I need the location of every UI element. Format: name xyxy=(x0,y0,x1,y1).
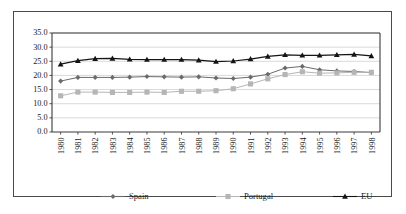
data-point-marker xyxy=(334,70,339,75)
x-tick-label: 1981 xyxy=(74,138,83,154)
data-point-marker xyxy=(75,90,80,95)
x-tick-label: 1995 xyxy=(316,138,325,154)
axes-group xyxy=(52,33,380,132)
series-eu xyxy=(58,52,375,67)
x-tick-label: 1997 xyxy=(350,138,359,154)
data-point-marker xyxy=(58,79,63,84)
chart-legend: SpainPortugalEU xyxy=(101,191,373,201)
legend-item-spain[interactable]: Spain xyxy=(101,191,149,201)
legend-label: Spain xyxy=(129,191,149,201)
x-tick-label: 1993 xyxy=(281,138,290,154)
x-tick-label: 1982 xyxy=(91,138,100,154)
x-tick-label: 1983 xyxy=(109,138,118,154)
x-tick-label: 1980 xyxy=(57,138,66,154)
data-point-marker xyxy=(300,69,305,74)
data-point-marker xyxy=(144,74,149,79)
legend-label: EU xyxy=(361,191,373,201)
y-tick-label: 35.0 xyxy=(33,28,47,37)
chart-figure: 0.05.010.015.020.025.030.035.0 198019811… xyxy=(0,0,406,214)
series-spain xyxy=(58,64,374,84)
legend-item-eu[interactable]: EU xyxy=(333,191,373,201)
x-tick-label: 1984 xyxy=(126,138,135,154)
data-point-marker xyxy=(162,74,167,79)
data-point-marker xyxy=(352,70,357,75)
x-tick-label: 1994 xyxy=(299,138,308,154)
data-series-group xyxy=(58,52,375,99)
legend-item-portugal[interactable]: Portugal xyxy=(216,191,274,201)
data-point-marker xyxy=(110,90,115,95)
data-point-marker xyxy=(369,70,374,75)
data-point-marker xyxy=(248,81,253,86)
data-point-marker xyxy=(162,90,167,95)
x-tick-label: 1990 xyxy=(229,138,238,154)
data-point-marker xyxy=(144,90,149,95)
data-point-marker xyxy=(283,72,288,77)
y-tick-label: 0.0 xyxy=(37,127,47,136)
data-point-marker xyxy=(110,194,115,199)
data-point-marker xyxy=(317,71,322,76)
data-point-marker xyxy=(231,76,236,81)
y-tick-label: 10.0 xyxy=(33,99,47,108)
x-tick-label: 1996 xyxy=(333,138,342,154)
data-point-marker xyxy=(58,93,63,98)
data-point-marker xyxy=(225,194,230,199)
data-point-marker xyxy=(283,66,288,71)
y-tick-label: 5.0 xyxy=(37,113,47,122)
x-tick-label: 1991 xyxy=(247,138,256,154)
data-point-marker xyxy=(265,72,270,77)
x-tick-label: 1987 xyxy=(178,138,187,154)
y-tick-label: 20.0 xyxy=(33,71,47,80)
data-point-marker xyxy=(127,90,132,95)
data-point-marker xyxy=(196,74,201,79)
y-axis-ticks-group: 0.05.010.015.020.025.030.035.0 xyxy=(33,28,52,136)
x-axis-ticks-group: 1980198119821983198419851986198719881989… xyxy=(57,132,377,154)
data-point-marker xyxy=(196,89,201,94)
data-point-marker xyxy=(231,86,236,91)
data-point-marker xyxy=(265,76,270,81)
x-tick-label: 1989 xyxy=(212,138,221,154)
x-tick-label: 1992 xyxy=(264,138,273,154)
x-tick-label: 1998 xyxy=(368,138,377,154)
series-portugal xyxy=(58,69,374,98)
y-tick-label: 15.0 xyxy=(33,85,47,94)
data-point-marker xyxy=(179,89,184,94)
data-point-marker xyxy=(213,88,218,93)
x-tick-label: 1985 xyxy=(143,138,152,154)
x-tick-label: 1986 xyxy=(160,138,169,154)
data-point-marker xyxy=(300,64,305,69)
y-tick-label: 25.0 xyxy=(33,57,47,66)
legend-label: Portugal xyxy=(244,191,274,201)
y-tick-label: 30.0 xyxy=(33,43,47,52)
data-point-marker xyxy=(93,90,98,95)
line-chart: 0.05.010.015.020.025.030.035.0 198019811… xyxy=(0,0,406,214)
data-point-marker xyxy=(213,75,218,80)
x-tick-label: 1988 xyxy=(195,138,204,154)
